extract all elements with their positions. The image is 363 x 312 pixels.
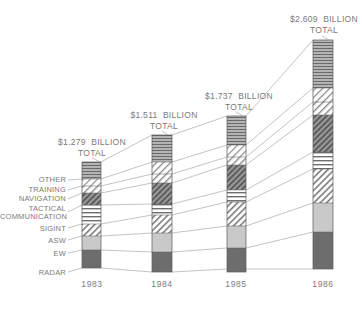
segment-navigation-1983 <box>82 186 101 193</box>
segment-tactical-1986 <box>313 115 333 152</box>
total-label-1986: $2.609 BILLION TOTAL <box>270 14 363 35</box>
total-label-1983: $1.279 BILLION TOTAL <box>38 137 146 158</box>
x-axis-label-1983: 1983 <box>71 279 113 289</box>
total-label-1984: $1.511 BILLION TOTAL <box>110 110 218 131</box>
segment-training-1985 <box>227 145 246 157</box>
x-axis-label-1984: 1984 <box>141 279 183 289</box>
segment-asw-1984 <box>152 215 172 233</box>
segment-radar-1984 <box>152 252 172 272</box>
total-label-1985: $1.737 BILLION TOTAL <box>185 91 293 112</box>
callout-label-other: OTHER <box>0 176 66 184</box>
callout-label-navigation: NAVIGATION <box>0 195 66 203</box>
segment-sigint-1985 <box>227 190 246 202</box>
bar-1983[interactable] <box>82 162 101 268</box>
segment-tactical-1984 <box>152 183 172 204</box>
callout-label-training: TRAINING <box>0 186 66 194</box>
segment-other-1984 <box>152 135 172 162</box>
segment-sigint-1984 <box>152 204 172 215</box>
segment-training-1986 <box>313 88 333 102</box>
callout-label-sigint: SIGINT <box>0 225 66 233</box>
segment-ew-1985 <box>227 226 246 248</box>
segment-ew-1986 <box>313 203 333 232</box>
segment-navigation-1984 <box>152 174 172 183</box>
bar-1985[interactable] <box>227 116 246 272</box>
segment-sigint-1986 <box>313 152 333 169</box>
bar-1986[interactable] <box>313 40 333 269</box>
segment-tactical-1985 <box>227 165 246 190</box>
x-axis-label-1985: 1985 <box>215 279 257 289</box>
segment-radar-1986 <box>313 232 333 269</box>
segment-radar-1985 <box>227 248 246 272</box>
callout-label-ew: EW <box>0 250 66 258</box>
segment-training-1984 <box>152 162 172 174</box>
segment-asw-1985 <box>227 202 246 226</box>
segment-navigation-1986 <box>313 102 333 115</box>
segment-radar-1983 <box>82 250 101 268</box>
segment-navigation-1985 <box>227 157 246 165</box>
segment-asw-1986 <box>313 169 333 203</box>
bar-1984[interactable] <box>152 135 172 272</box>
segment-sigint-1983 <box>82 205 101 224</box>
segment-other-1986 <box>313 40 333 88</box>
callout-label-radar: RADAR <box>0 269 66 277</box>
stacked-bar-chart: $1.279 BILLION TOTAL $1.511 BILLION TOTA… <box>0 0 363 312</box>
segment-ew-1983 <box>82 236 101 250</box>
callout-label-communication: COMMUNICATION <box>0 213 66 221</box>
segment-asw-1983 <box>82 224 101 236</box>
segment-ew-1984 <box>152 233 172 252</box>
segment-other-1985 <box>227 116 246 145</box>
segment-other-1983 <box>82 162 101 179</box>
segment-tactical-1983 <box>82 193 101 205</box>
x-axis-label-1986: 1986 <box>302 279 344 289</box>
callout-label-asw: ASW <box>0 237 66 245</box>
segment-training-1983 <box>82 179 101 186</box>
